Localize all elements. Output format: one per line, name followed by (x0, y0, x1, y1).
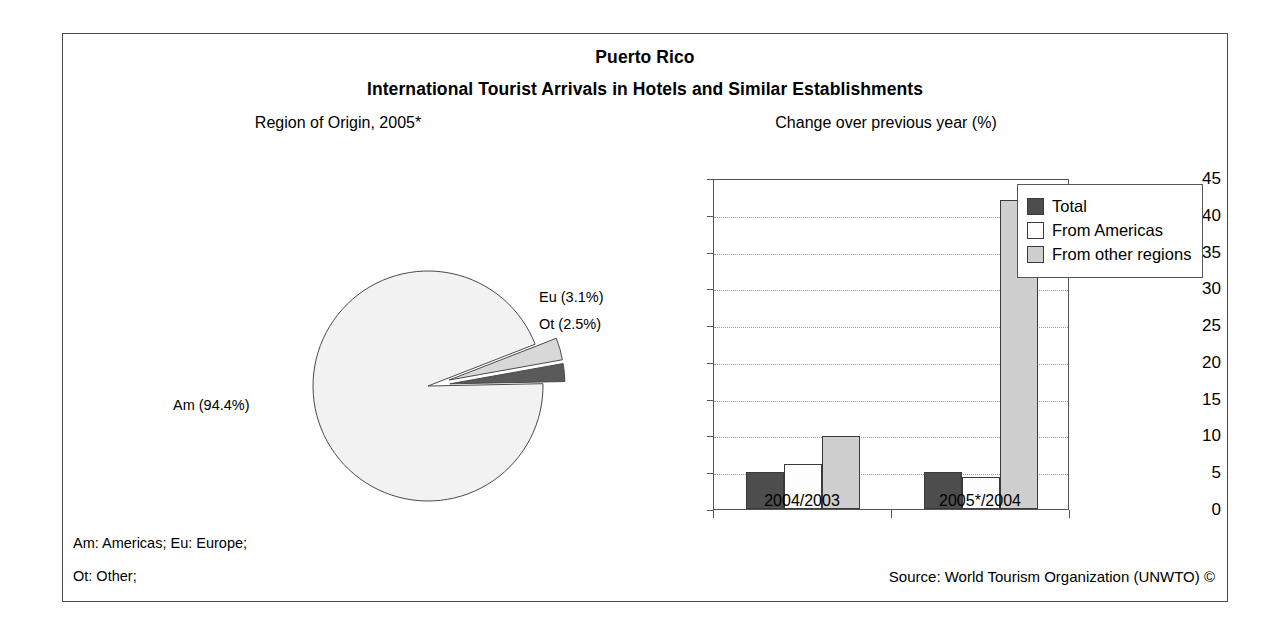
main-title: International Tourist Arrivals in Hotels… (63, 79, 1227, 100)
source-credit: Source: World Tourism Organization (UNWT… (889, 568, 1215, 585)
legend-item-from-americas: From Americas (1027, 221, 1191, 240)
legend-label-from-americas: From Americas (1052, 221, 1163, 240)
pie-subtitle: Region of Origin, 2005* (173, 114, 503, 132)
bar-subtitle: Change over previous year (%) (671, 114, 1101, 132)
legend-item-total: Total (1027, 197, 1191, 216)
x-category-label: 2005*/2004 (939, 492, 1021, 510)
pie-label-ot: Ot (2.5%) (539, 316, 601, 332)
x-tick-mark (891, 510, 892, 518)
y-tick-label: 15 (1159, 390, 1221, 410)
legend: Total From Americas From other regions (1017, 184, 1203, 278)
legend-item-from-other-regions: From other regions (1027, 245, 1191, 264)
legend-swatch-from-other-regions (1027, 246, 1044, 263)
chart-figure: Puerto Rico International Tourist Arriva… (62, 33, 1228, 602)
legend-label-total: Total (1052, 197, 1087, 216)
y-tick-label: 5 (1159, 463, 1221, 483)
note-abbreviations-line2: Ot: Other; (73, 568, 137, 584)
pie-label-eu: Eu (3.1%) (539, 289, 603, 305)
legend-swatch-from-americas (1027, 222, 1044, 239)
legend-label-from-other-regions: From other regions (1052, 245, 1191, 264)
x-category-label: 2004/2003 (764, 492, 840, 510)
y-tick-label: 30 (1159, 279, 1221, 299)
bar-series-group (714, 180, 1068, 509)
bar-chart: 051015202530354045 2004/20032005*/2004 T… (641, 144, 1221, 564)
legend-swatch-total (1027, 198, 1044, 215)
pie-label-am: Am (94.4%) (173, 397, 250, 413)
pie-chart: Eu (3.1%) Ot (2.5%) Am (94.4%) (173, 144, 643, 504)
x-tick-mark (1069, 510, 1070, 518)
country-title: Puerto Rico (63, 47, 1227, 68)
y-tick-label: 25 (1159, 316, 1221, 336)
pie-slice-am (313, 271, 543, 501)
plot-area (713, 179, 1069, 510)
y-tick-label: 0 (1159, 500, 1221, 520)
note-abbreviations-line1: Am: Americas; Eu: Europe; (73, 535, 247, 551)
x-tick-mark (713, 510, 714, 518)
y-tick-label: 20 (1159, 353, 1221, 373)
y-tick-label: 10 (1159, 426, 1221, 446)
